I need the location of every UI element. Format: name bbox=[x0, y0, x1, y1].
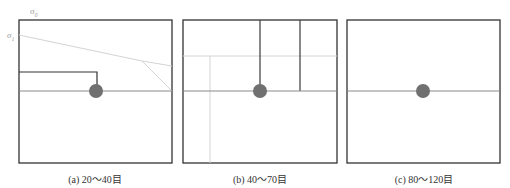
panel-a-stress-line-upper bbox=[19, 35, 142, 61]
panel-b-particle bbox=[253, 84, 267, 98]
caption-b: (b) 40～70目 bbox=[180, 171, 340, 186]
caption-c: (c) 80～120目 bbox=[344, 171, 504, 186]
panel-c bbox=[347, 20, 500, 163]
sigma-1-label: σ1 bbox=[7, 30, 14, 42]
sigma-0-label: σ0 bbox=[30, 6, 37, 18]
figure-canvas bbox=[0, 0, 510, 188]
panel-a bbox=[19, 20, 172, 163]
panel-c-particle bbox=[416, 84, 430, 98]
panel-a-particle bbox=[89, 84, 103, 98]
panel-b bbox=[183, 20, 337, 163]
panel-a-crack-path bbox=[19, 72, 97, 88]
caption-a: (a) 20～40目 bbox=[15, 171, 175, 186]
